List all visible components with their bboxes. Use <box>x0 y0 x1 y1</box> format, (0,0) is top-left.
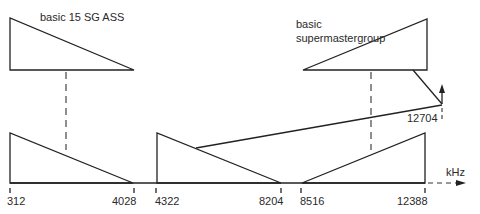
label-axis-unit-khz: kHz <box>446 166 465 178</box>
tick-label-4322: 4322 <box>155 195 179 207</box>
tick-label-312: 312 <box>7 195 25 207</box>
tick-label-8516: 8516 <box>300 195 324 207</box>
band-4322-8204 <box>157 133 281 183</box>
carrier-arrow-head <box>439 84 445 93</box>
label-supermastergroup: supermastergroup <box>296 32 385 44</box>
band-312-4028 <box>10 133 133 183</box>
label-basic: basic <box>296 18 322 30</box>
label-carrier-12704: 12704 <box>407 112 438 124</box>
label-basic-15sg-ass: basic 15 SG ASS <box>40 11 124 23</box>
basic-15sg-ass-spectrum <box>10 18 134 70</box>
tick-label-4028: 4028 <box>112 195 136 207</box>
frequency-axis-arrow-head <box>456 180 466 186</box>
tick-label-8204: 8204 <box>259 195 283 207</box>
tick-label-12388: 12388 <box>397 195 428 207</box>
band-8516-12388 <box>302 133 425 183</box>
frequency-translation-diagram: basic 15 SG ASS basic supermastergroup 1… <box>0 0 480 214</box>
modulation-line-upper <box>413 70 442 104</box>
